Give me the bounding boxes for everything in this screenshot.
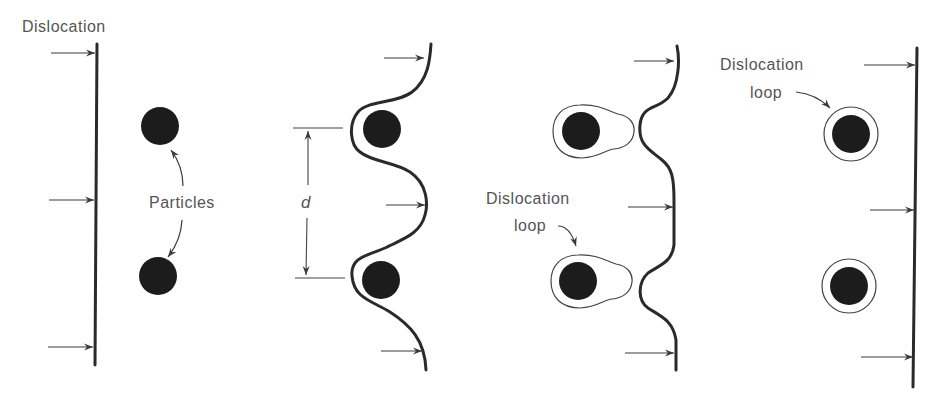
particle bbox=[141, 107, 179, 145]
dislocation-line bbox=[95, 44, 97, 365]
dislocation-loop-label-line2: loop bbox=[750, 84, 782, 101]
dislocation-label: Dislocation bbox=[22, 18, 106, 35]
particle bbox=[559, 262, 597, 300]
particle bbox=[139, 257, 177, 295]
particle bbox=[363, 110, 401, 148]
pointer-arrow-icon bbox=[558, 226, 576, 246]
dimension-arrow-icon bbox=[306, 218, 307, 275]
particle bbox=[562, 112, 600, 150]
dislocation-line bbox=[640, 46, 679, 370]
orowan-bypass-diagram: Dislocation Particles d bbox=[0, 0, 948, 398]
panel-4: Dislocation loop bbox=[720, 48, 917, 387]
pointer-arrow-icon bbox=[168, 220, 182, 257]
dislocation-loop-label-line2: loop bbox=[514, 217, 546, 234]
spacing-d-label: d bbox=[301, 193, 311, 212]
dislocation-loop-label-line1: Dislocation bbox=[486, 190, 570, 207]
particle bbox=[362, 261, 400, 299]
pointer-arrow-icon bbox=[171, 150, 183, 186]
panel-2: d bbox=[293, 44, 431, 370]
bowed-dislocation-line bbox=[351, 44, 431, 370]
panel-3: Dislocation loop bbox=[486, 46, 678, 370]
particles-label: Particles bbox=[149, 194, 215, 211]
particle bbox=[830, 267, 868, 305]
dislocation-line bbox=[913, 48, 917, 387]
dislocation-loop-label-line1: Dislocation bbox=[720, 56, 804, 73]
pointer-arrow-icon bbox=[796, 92, 830, 108]
particle bbox=[832, 115, 870, 153]
panel-1: Dislocation Particles bbox=[22, 18, 215, 365]
